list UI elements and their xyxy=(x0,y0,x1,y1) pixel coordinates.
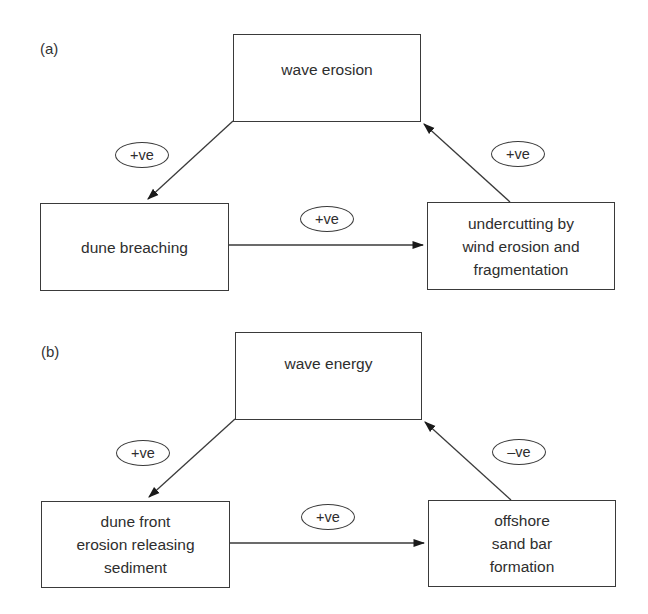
node-label: wave energy xyxy=(285,352,373,375)
node-wave-energy: wave energy xyxy=(235,332,422,420)
link-label-a-left-to-right: +ve xyxy=(300,206,354,232)
link-label-b-top-to-left: +ve xyxy=(116,440,170,466)
arrow-a-right-to-top xyxy=(424,124,510,202)
node-label: dune front erosion releasing sediment xyxy=(76,510,194,579)
link-label-a-right-to-top: +ve xyxy=(491,141,545,167)
node-dune-front-erosion: dune front erosion releasing sediment xyxy=(41,501,230,588)
link-label-a-top-to-left: +ve xyxy=(115,142,169,168)
node-label: undercutting by wind erosion and fragmen… xyxy=(462,212,579,281)
link-label-b-left-to-right: +ve xyxy=(301,504,355,530)
node-offshore-sand-bar: offshore sand bar formation xyxy=(428,500,616,587)
panel-label-a: (a) xyxy=(40,40,58,57)
node-label: wave erosion xyxy=(281,58,372,81)
node-label: offshore sand bar formation xyxy=(490,509,555,578)
arrow-b-right-to-top xyxy=(425,422,511,500)
node-wave-erosion: wave erosion xyxy=(233,34,421,122)
link-label-b-right-to-top: –ve xyxy=(492,439,546,465)
node-undercutting: undercutting by wind erosion and fragmen… xyxy=(427,202,615,290)
node-dune-breaching: dune breaching xyxy=(40,203,229,291)
panel-label-b: (b) xyxy=(41,343,59,360)
node-label: dune breaching xyxy=(81,236,188,259)
